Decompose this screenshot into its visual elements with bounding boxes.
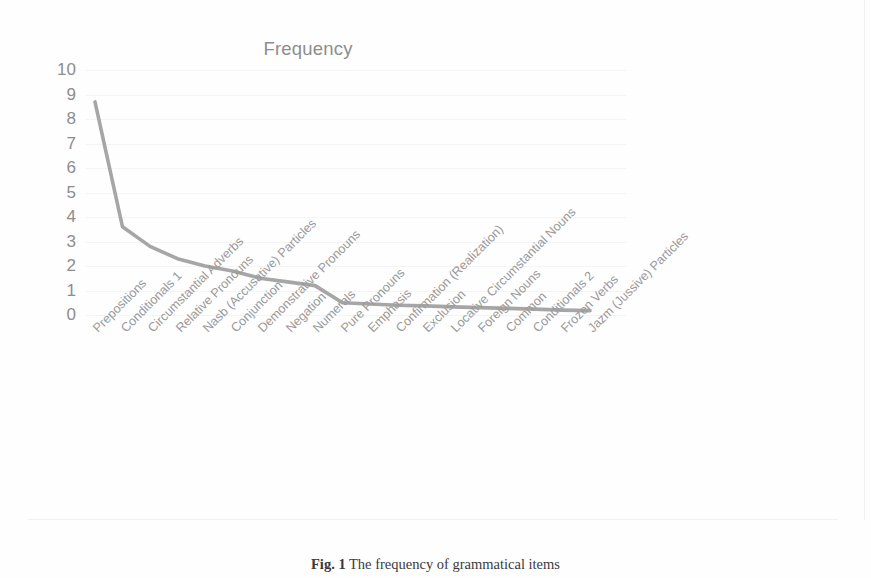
figure-caption-label: Fig. 1: [311, 556, 346, 572]
scan-edge-line-right: [864, 0, 865, 520]
scan-edge-line-bottom: [28, 519, 838, 520]
figure-caption: Fig. 1 The frequency of grammatical item…: [0, 556, 871, 573]
x-axis-category-labels: PrepositionsConditionals 1Circumstantial…: [28, 318, 840, 518]
scanned-page: Frequency 109876543210 PrepositionsCondi…: [0, 0, 871, 578]
frequency-line-chart: Frequency 109876543210 PrepositionsCondi…: [28, 18, 840, 518]
figure-caption-text: The frequency of grammatical items: [349, 556, 560, 572]
